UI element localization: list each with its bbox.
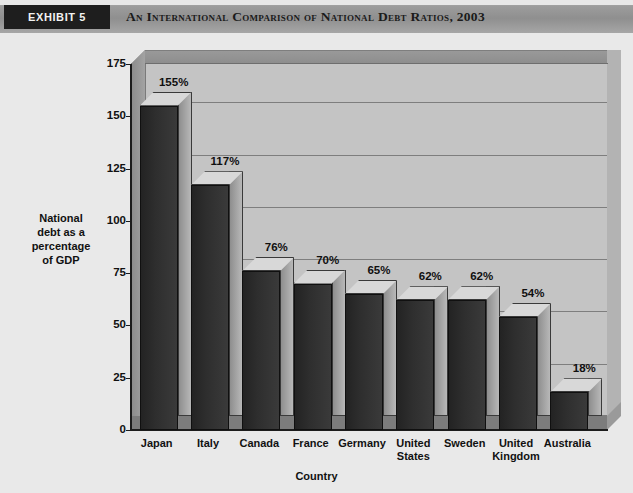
exhibit-number-box: EXHIBIT 5 — [4, 5, 110, 29]
y-axis-tick-mark — [126, 221, 132, 222]
bar-value-label: 155% — [148, 76, 200, 88]
y-axis-tick-label: 125 — [82, 162, 126, 174]
y-axis-tick-mark — [126, 273, 132, 274]
y-axis-title-line: of GDP — [18, 253, 104, 267]
bar-front-face — [550, 392, 588, 430]
x-axis-title: Country — [0, 470, 633, 482]
bar-side-face — [537, 303, 551, 416]
y-axis-line — [130, 64, 132, 431]
bar-front-face — [140, 106, 178, 430]
page-title: An International Comparison of National … — [126, 5, 485, 29]
y-axis-tick-label: 75 — [82, 266, 126, 278]
y-axis-tick-mark — [126, 169, 132, 170]
bar-side-face — [383, 280, 397, 416]
exhibit-number-label: EXHIBIT 5 — [28, 11, 86, 23]
y-axis-tick-mark — [126, 430, 132, 431]
exhibit-header-band: EXHIBIT 5 An International Comparison of… — [0, 0, 633, 33]
bar-front-face — [499, 317, 537, 430]
bar-front-face — [191, 185, 229, 430]
bar-column — [396, 286, 434, 430]
bar-column — [294, 270, 332, 430]
bar-front-face — [396, 300, 434, 430]
bar-side-face — [229, 171, 243, 416]
gridline — [145, 50, 607, 51]
bar-side-face — [434, 286, 448, 416]
y-axis-title: Nationaldebt as apercentageof GDP — [18, 211, 104, 267]
bar-column — [242, 257, 280, 430]
bar-value-label: 70% — [302, 254, 354, 266]
y-axis-tick-label: 0 — [82, 423, 126, 435]
y-axis-title-line: debt as a — [18, 225, 104, 239]
y-axis-title-line: National — [18, 211, 104, 225]
bar-column — [345, 280, 383, 430]
x-axis-tick-label: Australia — [538, 437, 597, 450]
y-axis-title-line: percentage — [18, 239, 104, 253]
y-axis-tick-mark — [126, 325, 132, 326]
bar-side-face — [332, 270, 346, 416]
gridline — [145, 102, 607, 103]
bar-front-face — [345, 294, 383, 430]
bar-value-label: 62% — [404, 270, 456, 282]
bar-side-face — [280, 257, 294, 416]
bar-front-face — [294, 284, 332, 430]
y-axis-tick-mark — [126, 378, 132, 379]
bar-value-label: 65% — [353, 264, 405, 276]
bar-front-face — [242, 271, 280, 430]
bar-column — [140, 92, 178, 430]
y-axis-tick-mark — [126, 64, 132, 65]
bar-value-label: 18% — [558, 362, 610, 374]
bar-value-label: 54% — [507, 287, 559, 299]
plot-top-slab — [131, 50, 607, 64]
bar-front-face — [448, 300, 486, 430]
bar-column — [550, 378, 588, 430]
bar-column — [191, 171, 229, 430]
bar-value-label: 62% — [456, 270, 508, 282]
plot-right-depth-wall — [607, 50, 621, 416]
bar-value-label: 117% — [199, 155, 251, 167]
plot-top-edge — [131, 63, 608, 64]
y-axis-tick-label: 175 — [82, 57, 126, 69]
bar-side-face — [178, 92, 192, 416]
bar-value-label: 76% — [250, 241, 302, 253]
bar-side-face — [486, 286, 500, 416]
bar-column — [499, 303, 537, 430]
y-axis-tick-label: 150 — [82, 109, 126, 121]
y-axis-tick-mark — [126, 116, 132, 117]
y-axis-tick-label: 50 — [82, 318, 126, 330]
y-axis-tick-label: 25 — [82, 371, 126, 383]
bar-column — [448, 286, 486, 430]
chart-figure: 0255075100125150175 155%117%76%70%65%62%… — [0, 33, 633, 493]
